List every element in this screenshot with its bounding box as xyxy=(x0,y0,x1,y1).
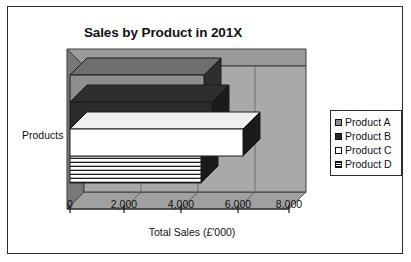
legend-label-product-c: Product C xyxy=(345,144,392,156)
x-tick-label-1: 2,000 xyxy=(101,198,147,210)
x-tick-label-0: 0 xyxy=(47,198,93,210)
chart-legend: Product A Product B Product C Product D xyxy=(330,110,402,176)
x-tick-label-3: 6,000 xyxy=(215,198,261,210)
legend-label-product-b: Product B xyxy=(345,130,391,142)
legend-swatch-product-b xyxy=(335,133,342,140)
legend-swatch-product-c xyxy=(335,147,342,154)
x-axis-title: Total Sales (£'000) xyxy=(66,226,318,238)
legend-item-product-c[interactable]: Product C xyxy=(335,143,398,157)
y-axis-title: Products xyxy=(22,129,63,141)
chart-frame: Sales by Product in 201X xyxy=(7,6,403,254)
legend-item-product-b[interactable]: Product B xyxy=(335,129,398,143)
legend-swatch-product-a xyxy=(335,119,342,126)
x-tick-label-2: 4,000 xyxy=(158,198,204,210)
legend-swatch-product-d xyxy=(335,161,342,168)
legend-item-product-d[interactable]: Product D xyxy=(335,157,398,171)
legend-label-product-a: Product A xyxy=(345,116,391,128)
x-tick-label-4: 8,000 xyxy=(266,198,312,210)
plot-area: 0 2,000 4,000 6,000 8,000 Products Total… xyxy=(8,7,411,262)
legend-item-product-a[interactable]: Product A xyxy=(335,115,398,129)
legend-label-product-d: Product D xyxy=(345,158,392,170)
